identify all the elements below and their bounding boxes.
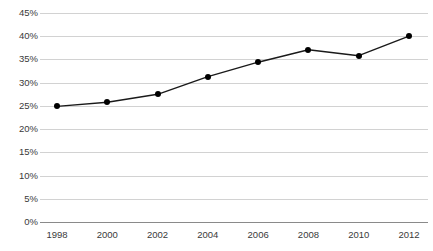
y-axis-tick-label: 20% — [19, 124, 38, 134]
x-axis-tick-label: 2004 — [197, 230, 218, 240]
y-axis-tick-label: 15% — [19, 147, 38, 157]
y-axis-tick-label: 10% — [19, 171, 38, 181]
y-axis-tick-label: 0% — [24, 217, 38, 227]
y-axis-tick-label: 30% — [19, 78, 38, 88]
x-axis-tick-label: 2002 — [147, 230, 168, 240]
x-axis-tick-label: 1998 — [46, 230, 67, 240]
x-axis-tick-label: 2000 — [97, 230, 118, 240]
y-axis-tick-label: 35% — [19, 54, 38, 64]
x-axis-tick-label: 2010 — [348, 230, 369, 240]
y-axis-tick-label: 45% — [19, 8, 38, 18]
line-chart: 0%5%10%15%20%25%30%35%40%45%199820002002… — [0, 0, 433, 251]
axis-labels-group: 0%5%10%15%20%25%30%35%40%45%199820002002… — [0, 0, 433, 251]
x-axis-tick-label: 2012 — [398, 230, 419, 240]
y-axis-tick-label: 40% — [19, 31, 38, 41]
y-axis-tick-label: 25% — [19, 101, 38, 111]
x-axis-tick-label: 2006 — [248, 230, 269, 240]
x-axis-tick-label: 2008 — [298, 230, 319, 240]
y-axis-tick-label: 5% — [24, 194, 38, 204]
